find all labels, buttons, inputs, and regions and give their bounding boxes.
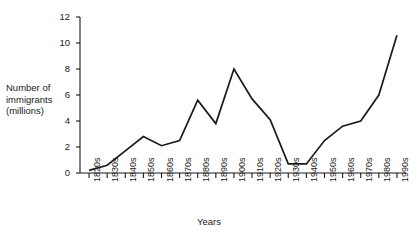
x-tick-label: 1830s	[111, 157, 120, 182]
x-tick-label: 1860s	[166, 157, 175, 182]
x-tick-label: 1980s	[383, 157, 392, 182]
x-tick-label: 1910s	[256, 157, 265, 182]
immigration-line-chart: Number of immigrants (millions) 02468101…	[0, 0, 418, 240]
y-tick-label: 0	[52, 168, 70, 178]
x-tick-label: 1990s	[401, 157, 410, 182]
x-tick-label: 1960s	[347, 157, 356, 182]
x-tick-label: 1950s	[329, 157, 338, 182]
y-axis-title-line-3: (millions)	[6, 105, 62, 117]
x-tick-label: 1870s	[184, 157, 193, 182]
data-series-line	[89, 35, 397, 170]
y-axis-ticks	[76, 17, 80, 173]
x-tick-label: 1940s	[310, 157, 319, 182]
x-tick-label: 1900s	[238, 157, 247, 182]
x-tick-label: 1880s	[202, 157, 211, 182]
x-tick-label: 1840s	[129, 157, 138, 182]
x-tick-label: 1890s	[220, 157, 229, 182]
x-axis-title: Years	[0, 216, 418, 227]
y-tick-label: 12	[52, 12, 70, 22]
x-tick-label: 1850s	[147, 157, 156, 182]
y-tick-label: 2	[52, 142, 70, 152]
y-tick-label: 8	[52, 64, 70, 74]
x-tick-label: 1920s	[274, 157, 283, 182]
y-tick-label: 4	[52, 116, 70, 126]
x-tick-label: 1820s	[93, 157, 102, 182]
y-tick-label: 10	[52, 38, 70, 48]
y-tick-label: 6	[52, 90, 70, 100]
x-tick-label: 1970s	[365, 157, 374, 182]
axes	[80, 17, 406, 173]
x-tick-label: 1930s	[292, 157, 301, 182]
